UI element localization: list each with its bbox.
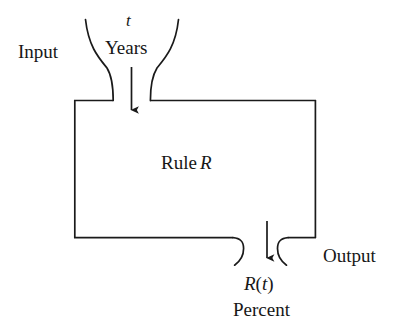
function-machine-diagram: Input t Years RuleR R(t) Percent Output <box>0 0 407 330</box>
input-units-label: Years <box>105 38 147 57</box>
output-expression-label: R(t) <box>244 274 274 293</box>
output-variable: R <box>244 273 256 294</box>
output-units-label: Percent <box>233 300 290 319</box>
rule-variable: R <box>197 152 212 173</box>
spout-left-hook <box>233 238 244 266</box>
funnel-right-curve <box>150 20 178 101</box>
rule-text: Rule <box>161 152 197 173</box>
funnel-left-curve <box>86 20 114 101</box>
input-variable-label: t <box>126 12 131 29</box>
input-label: Input <box>18 42 58 61</box>
spout-right-hook <box>278 238 289 266</box>
output-spout <box>233 238 288 266</box>
output-label: Output <box>323 246 376 265</box>
output-close-paren: ) <box>267 273 273 294</box>
rule-label: RuleR <box>161 153 212 172</box>
